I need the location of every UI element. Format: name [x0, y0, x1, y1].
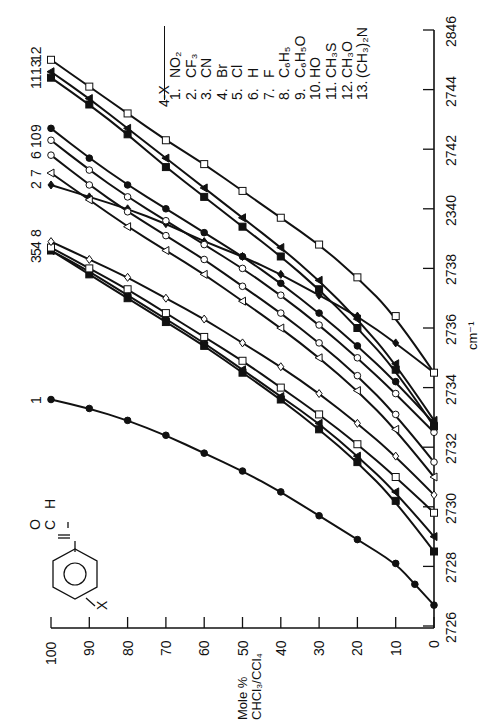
legend-entry-number: 10.: [308, 78, 322, 100]
data-point-12: [431, 369, 438, 376]
wavenumber-tick-label: 2846: [443, 16, 459, 47]
benzene-ring-icon: [53, 549, 97, 599]
data-point-12: [392, 313, 399, 320]
data-point-12: [162, 137, 169, 144]
curve-label-8: 8: [28, 229, 44, 237]
data-point-1: [412, 581, 419, 588]
wavenumber-tick-label: 2744: [443, 75, 459, 106]
aromatic-circle-icon: [64, 563, 86, 585]
legend-entry-number: 1.: [168, 78, 182, 100]
data-point-6: [316, 340, 323, 347]
wavenumber-tick-label: 2726: [443, 612, 459, 643]
legend-entry-number: 4.: [215, 78, 229, 100]
mole-percent-tick-label: 30: [311, 640, 327, 656]
data-point-1: [278, 489, 285, 496]
legend-entry-label: Cl: [229, 65, 245, 78]
legend-entry-13: 13. (CH₃)₂N: [355, 27, 369, 100]
data-point-10: [354, 355, 361, 362]
curve-1: [51, 400, 434, 606]
legend-entry-label: CN: [198, 58, 214, 78]
wavenumber-tick-label: 2732: [443, 433, 459, 464]
data-point-10: [392, 390, 399, 397]
data-point-1: [86, 405, 93, 412]
data-point-7: [47, 169, 54, 177]
curve-label-1: 1: [28, 396, 44, 404]
mole-percent-tick-label: 90: [81, 640, 97, 656]
data-point-1: [201, 450, 208, 457]
legend-entry-10: 10. HO: [308, 57, 322, 100]
legend-entry-1: 1. NO₂: [168, 52, 182, 100]
data-point-11: [354, 325, 361, 332]
mole-percent-tick-label: 40: [273, 640, 289, 656]
legend-entry-number: 2.: [184, 78, 198, 100]
data-point-4: [392, 474, 399, 481]
data-point-8: [163, 294, 169, 302]
data-point-11: [201, 193, 208, 200]
legend-entry-number: 3.: [199, 78, 213, 100]
curve-5: [51, 251, 434, 537]
benzaldehyde-structure: [53, 522, 97, 606]
curve-6: [51, 155, 434, 462]
wavenumber-tick-label: 2734: [443, 373, 459, 404]
mole-percent-tick-label: 10: [388, 640, 404, 656]
data-point-6: [48, 152, 55, 159]
legend-entry-6: 6. H: [246, 68, 260, 100]
data-point-4: [239, 357, 246, 364]
legend-entry-3: 3. CN: [199, 58, 213, 100]
data-point-6: [392, 411, 399, 418]
data-point-9: [354, 343, 361, 350]
curve-label-4: 4: [28, 241, 44, 249]
data-curves: [51, 60, 434, 605]
legend-entry-label: Br: [214, 64, 230, 78]
data-point-10: [48, 137, 55, 144]
curve-label-7: 7: [28, 169, 44, 177]
data-point-6: [431, 459, 438, 466]
mole-percent-tick-label: 60: [196, 640, 212, 656]
data-point-4: [162, 310, 169, 317]
chart-canvas: [0, 0, 487, 725]
mole-percent-tick-label: 20: [349, 640, 365, 656]
data-point-10: [239, 265, 246, 272]
data-point-8: [201, 315, 207, 323]
legend-entry-2: 2. CF₃: [184, 54, 198, 100]
curve-label-11: 11: [28, 74, 44, 89]
curve-label-3: 3: [28, 256, 44, 264]
data-point-1: [354, 536, 361, 543]
data-point-10: [316, 322, 323, 329]
data-point-1: [48, 396, 55, 403]
data-point-11: [277, 253, 284, 260]
mole-percent-tick-label: 70: [158, 640, 174, 656]
atom-label-c: C: [42, 520, 58, 530]
data-point-9: [124, 182, 131, 189]
data-point-11: [239, 223, 246, 230]
data-point-6: [124, 208, 131, 215]
legend-entry-label: C₆H₅: [276, 46, 292, 78]
data-point-11: [162, 164, 169, 171]
y-axis-title-line1: Mole %: [236, 653, 250, 720]
data-point-9: [163, 206, 170, 213]
data-point-12: [354, 274, 361, 281]
legend-entry-11: 11. CH₃S: [324, 43, 338, 100]
mole-percent-tick-label: 0: [426, 640, 442, 648]
legend-entry-label: H: [245, 68, 261, 78]
legend-entry-7: 7. F: [262, 69, 276, 100]
data-point-10: [124, 194, 131, 201]
data-point-4: [277, 384, 284, 391]
curve-label-9: 9: [28, 125, 44, 133]
data-point-6: [163, 232, 170, 239]
legend-entry-number: 5.: [230, 78, 244, 100]
data-point-10: [278, 292, 285, 299]
legend-entry-label: CH₃O: [339, 41, 355, 78]
data-point-4: [316, 411, 323, 418]
legend-entry-number: 9.: [293, 78, 307, 100]
data-point-10: [86, 167, 93, 174]
atom-label-x: X: [94, 601, 110, 610]
legend-entry-label: C₆H₅O: [292, 36, 308, 78]
curve-label-6: 6: [28, 151, 44, 159]
curve-label-10: 10: [28, 133, 44, 149]
atom-label-h: H: [42, 499, 58, 509]
data-point-7: [200, 270, 207, 278]
data-point-3: [431, 548, 438, 555]
data-point-6: [239, 283, 246, 290]
wavenumber-tick-label: 2736: [443, 314, 459, 345]
